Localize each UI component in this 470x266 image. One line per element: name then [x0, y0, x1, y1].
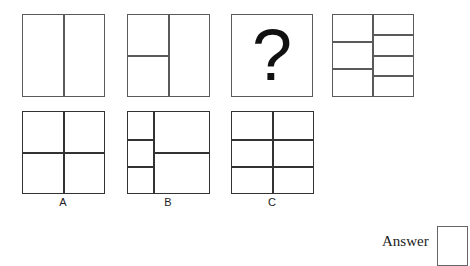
option-b-label: B [127, 196, 209, 208]
divider-line [333, 68, 373, 70]
divider-line [128, 166, 154, 168]
divider-line [232, 139, 313, 141]
missing-figure: ? [231, 14, 313, 97]
option-a[interactable] [22, 111, 105, 194]
option-c[interactable] [231, 111, 314, 194]
question-mark: ? [232, 19, 312, 91]
divider-line [154, 152, 209, 154]
option-b[interactable] [127, 111, 210, 194]
divider-line [128, 55, 169, 57]
divider-line [128, 139, 154, 141]
sequence-figure-1 [22, 14, 105, 97]
sequence-figure-2 [127, 14, 210, 97]
divider-line [272, 112, 274, 193]
divider-line [232, 166, 313, 168]
sequence-figure-4 [332, 14, 414, 97]
option-c-label: C [231, 196, 313, 208]
divider-line [373, 55, 413, 57]
answer-label: Answer [382, 233, 429, 250]
divider-line [373, 75, 413, 77]
answer-box[interactable] [437, 226, 468, 266]
option-a-label: A [22, 196, 104, 208]
divider-line [333, 41, 373, 43]
divider-line [63, 15, 65, 96]
divider-line [23, 152, 104, 154]
divider-line [373, 34, 413, 36]
